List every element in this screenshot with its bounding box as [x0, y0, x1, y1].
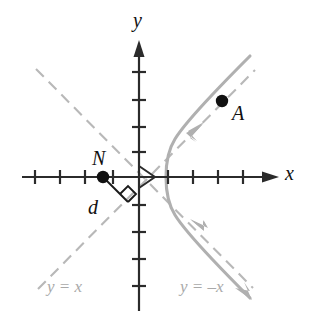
point-n-label: N [92, 148, 105, 168]
point-n-dot [97, 171, 109, 183]
curve-arrowhead-lower-mid [190, 219, 208, 231]
distance-label-d: d [88, 197, 98, 217]
y-axis-label: y [133, 10, 142, 30]
asymptote-label-y-equals-x: y = x [47, 278, 82, 295]
hyperbola-figure: x y A N d y = x y = –x [0, 0, 314, 326]
x-axis-label: x [285, 163, 294, 183]
x-axis-arrowhead [262, 172, 279, 183]
y-axis-arrowhead [134, 40, 145, 57]
curve-arrowhead-upper [186, 122, 204, 142]
point-a-label: A [232, 103, 244, 123]
asymptote-label-y-equals-minus-x: y = –x [180, 278, 224, 295]
point-a-dot [216, 95, 228, 107]
